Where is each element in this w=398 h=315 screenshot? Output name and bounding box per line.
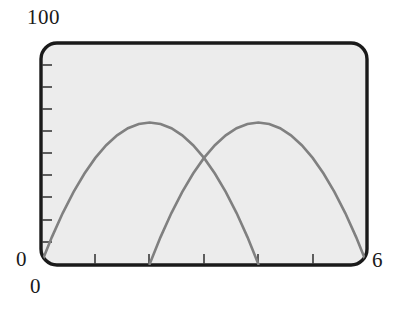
plot-canvas	[0, 0, 398, 315]
x-axis-max-label: 6	[372, 250, 383, 271]
y-axis-max-label: 100	[27, 7, 60, 28]
x-axis-min-label: 0	[30, 276, 41, 297]
chart-figure: 100 0 0 6	[0, 0, 398, 315]
plot-background	[41, 43, 367, 265]
y-axis-min-label: 0	[16, 249, 27, 270]
